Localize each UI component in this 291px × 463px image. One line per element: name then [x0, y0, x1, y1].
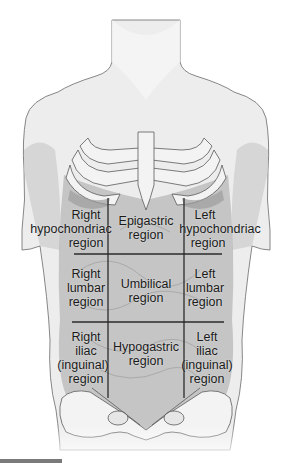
label-line: Hypogastric — [113, 340, 179, 354]
region-umbilical: Umbilical region — [121, 277, 172, 305]
label-line: Right — [60, 208, 111, 222]
label-line: iliac — [63, 344, 108, 358]
label-line: region — [63, 372, 108, 386]
label-line: Umbilical — [121, 277, 172, 291]
label-line: hypochondriac — [30, 222, 111, 236]
label-line: (inguinal) — [181, 358, 232, 372]
label-line: region — [181, 372, 232, 386]
bottom-bar — [0, 459, 62, 463]
region-right-iliac-inguinal: Right iliac (inguinal) region — [63, 330, 108, 386]
region-right-lumbar: Right lumbar region — [67, 267, 105, 309]
label-line: Left — [149, 208, 260, 222]
label-line: hypochondriac — [179, 222, 260, 236]
label-line: Right — [63, 330, 108, 344]
region-left-lumbar: Left lumbar region — [186, 267, 224, 309]
label-line: region — [121, 291, 172, 305]
label-line: Left — [181, 330, 232, 344]
label-line: region — [113, 354, 179, 368]
label-line: region — [60, 236, 111, 250]
region-hypogastric: Hypogastric region — [113, 340, 179, 368]
label-line: region — [186, 295, 224, 309]
label-line: iliac — [181, 344, 232, 358]
region-right-hypochondriac: Right hypochondriac region — [60, 208, 111, 250]
rib-cage — [66, 132, 226, 210]
label-line: region — [155, 236, 260, 250]
region-left-iliac-inguinal: Left iliac (inguinal) region — [181, 330, 232, 386]
label-line: (inguinal) — [57, 358, 108, 372]
label-line: lumbar — [186, 281, 224, 295]
label-line: Right — [67, 267, 105, 281]
label-line: region — [67, 295, 105, 309]
region-left-hypochondriac: Left hypochondriac region — [179, 208, 260, 250]
label-line: Left — [186, 267, 224, 281]
label-line: lumbar — [67, 281, 105, 295]
